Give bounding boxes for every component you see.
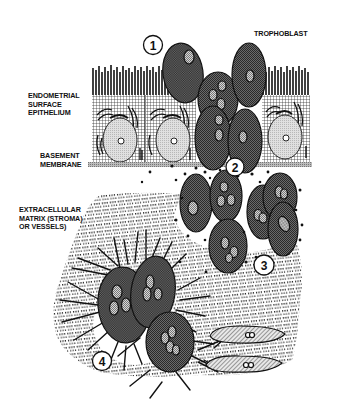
label-epithelium-line3: EPITHELIUM xyxy=(28,108,71,117)
svg-text:1: 1 xyxy=(150,39,157,53)
label-basement-line2: MEMBRANE xyxy=(40,160,82,169)
svg-text:4: 4 xyxy=(99,355,106,369)
svg-text:2: 2 xyxy=(232,161,239,175)
step-marker-1: 1 xyxy=(144,36,163,55)
label-matrix-line3: OR VESSELS) xyxy=(19,222,67,231)
step-marker-3: 3 xyxy=(254,255,274,275)
implantation-diagram: 1 2 3 4 TROPHOBLAST ENDOMETRIAL SURFACE … xyxy=(0,0,342,407)
svg-text:3: 3 xyxy=(261,259,268,273)
step-marker-4: 4 xyxy=(93,352,112,371)
basement-membrane xyxy=(88,162,312,167)
step-marker-2: 2 xyxy=(226,158,244,176)
label-trophoblast: TROPHOBLAST xyxy=(254,29,308,38)
